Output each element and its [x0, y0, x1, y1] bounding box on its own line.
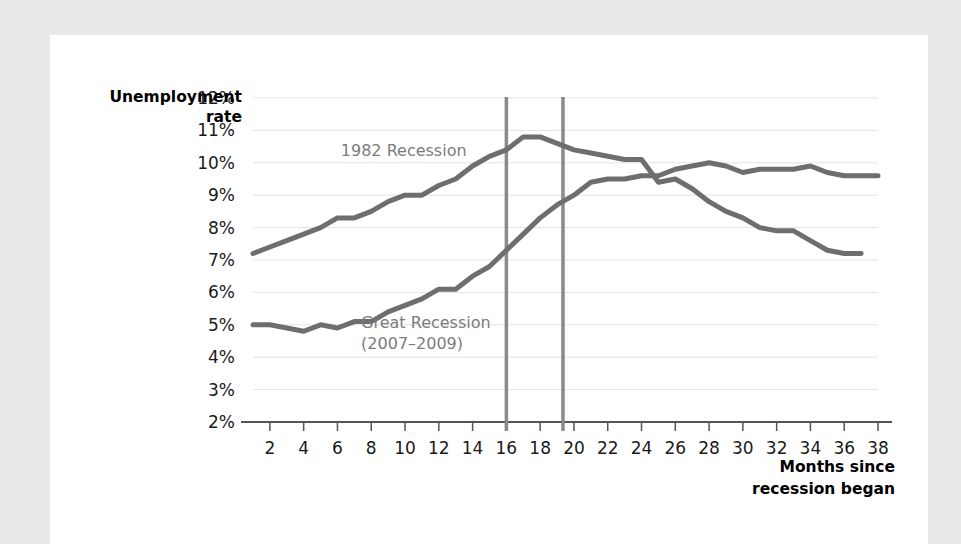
1982-recession-label: 1982 Recession: [341, 141, 467, 160]
chart-canvas: 12%11%10%9%8%7%6%5%4%3%2% 24681012141618…: [50, 35, 928, 544]
x-tick-label-12: 12: [428, 438, 450, 458]
x-tick-label-38: 38: [867, 438, 889, 458]
y-tick-label-4: 4%: [208, 347, 235, 367]
x-tick-label-32: 32: [766, 438, 788, 458]
y-tick-label-6: 6%: [208, 282, 235, 302]
x-tick-label-28: 28: [698, 438, 720, 458]
y-tick-label-3: 3%: [208, 380, 235, 400]
great-recession-label-line2: (2007–2009): [361, 334, 463, 353]
x-axis-title-line2: recession began: [752, 480, 895, 498]
unemployment-line-chart: 12%11%10%9%8%7%6%5%4%3%2% 24681012141618…: [50, 35, 928, 544]
y-tick-label-8: 8%: [208, 218, 235, 238]
x-tick-label-2: 2: [264, 438, 275, 458]
x-tick-label-16: 16: [496, 438, 518, 458]
x-tick-label-20: 20: [563, 438, 585, 458]
x-tick-label-8: 8: [366, 438, 377, 458]
y-tick-label-9: 9%: [208, 185, 235, 205]
great-recession-label-line1: Great Recession: [361, 313, 491, 332]
y-tick-labels-group: 12%11%10%9%8%7%6%5%4%3%2%: [197, 88, 235, 432]
x-tick-label-22: 22: [597, 438, 619, 458]
x-tick-label-24: 24: [631, 438, 653, 458]
x-tick-label-14: 14: [462, 438, 484, 458]
series-line-1: [253, 163, 878, 331]
y-tick-label-5: 5%: [208, 315, 235, 335]
y-tick-label-2: 2%: [208, 412, 235, 432]
x-tick-label-18: 18: [529, 438, 551, 458]
x-tick-labels-group: 2468101214161820222426283032343638: [264, 438, 888, 458]
figure-card: 12%11%10%9%8%7%6%5%4%3%2% 24681012141618…: [50, 35, 928, 544]
x-tick-label-10: 10: [394, 438, 416, 458]
x-tick-label-36: 36: [833, 438, 855, 458]
vertical-markers-group: [506, 97, 563, 431]
y-axis-title-line1: Unemployment: [109, 88, 242, 106]
annotations-group: 1982 RecessionGreat Recession(2007–2009): [341, 141, 491, 352]
x-tick-label-30: 30: [732, 438, 754, 458]
x-axis-title-line1: Months since: [780, 458, 895, 476]
y-tick-label-10: 10%: [197, 153, 235, 173]
x-tick-label-6: 6: [332, 438, 343, 458]
x-axis-group: [241, 422, 892, 431]
series-lines-group: [253, 137, 878, 331]
x-tick-label-4: 4: [298, 438, 309, 458]
x-tick-label-34: 34: [800, 438, 822, 458]
y-axis-title-line2: rate: [206, 108, 242, 126]
y-tick-label-7: 7%: [208, 250, 235, 270]
x-tick-label-26: 26: [664, 438, 686, 458]
